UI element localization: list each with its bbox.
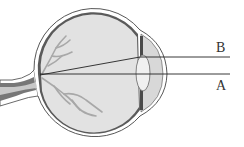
- iris-top: [140, 36, 143, 56]
- label-b: B: [216, 40, 225, 55]
- label-a: A: [216, 78, 227, 93]
- iris-bottom: [140, 90, 143, 110]
- lens: [136, 55, 150, 91]
- eye-diagram: B A: [0, 0, 244, 147]
- optic-nerve: [0, 70, 38, 106]
